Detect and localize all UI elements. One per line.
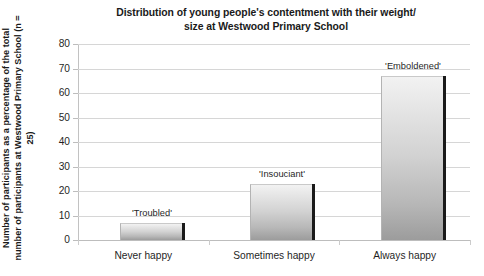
- y-tick-label-10: 10: [10, 211, 70, 221]
- bar-never-happy-shadow: [182, 223, 185, 240]
- chart-title-line-1: Distribution of young people's contentme…: [116, 7, 416, 18]
- y-tick-label-40: 40: [10, 137, 70, 147]
- bar-always-happy[interactable]: [381, 76, 446, 240]
- bar-annotation-troubled: 'Troubled': [102, 208, 202, 219]
- chart-title: Distribution of young people's contentme…: [96, 6, 436, 33]
- y-tick-label-60: 60: [10, 88, 70, 98]
- y-tick-label-0: 0: [10, 235, 70, 245]
- bar-annotation-insouciant: 'Insouciant': [232, 169, 332, 180]
- x-axis-label-sometimes-happy: Sometimes happy: [209, 250, 340, 262]
- bar-sometimes-happy-shadow: [312, 184, 315, 240]
- bar-never-happy[interactable]: [120, 223, 185, 240]
- x-axis-tick-1: [209, 240, 210, 245]
- x-axis-label-always-happy: Always happy: [339, 250, 470, 262]
- y-axis-tick-labels: 80 70 60 50 40 30 20 10 0: [0, 44, 70, 241]
- plot-area: 'Troubled' 'Insouciant' 'Emboldened': [78, 44, 470, 240]
- y-tick-label-50: 50: [10, 113, 70, 123]
- bar-chart: Distribution of young people's contentme…: [0, 0, 484, 276]
- x-axis-line: [78, 240, 470, 241]
- x-axis-tick-2: [339, 240, 340, 245]
- y-tick-label-80: 80: [10, 39, 70, 49]
- x-axis-tick-end: [470, 240, 471, 245]
- x-axis-label-never-happy: Never happy: [78, 250, 209, 262]
- chart-title-line-2: size at Westwood Primary School: [184, 21, 348, 32]
- bar-annotation-emboldened: 'Emboldened': [363, 61, 463, 72]
- y-tick-label-30: 30: [10, 162, 70, 172]
- y-tick-label-70: 70: [10, 64, 70, 74]
- bar-sometimes-happy[interactable]: [250, 184, 315, 240]
- y-tick-label-20: 20: [10, 186, 70, 196]
- x-axis-tick-start: [78, 240, 79, 245]
- gridline-80: [78, 44, 470, 45]
- bar-always-happy-shadow: [443, 76, 446, 240]
